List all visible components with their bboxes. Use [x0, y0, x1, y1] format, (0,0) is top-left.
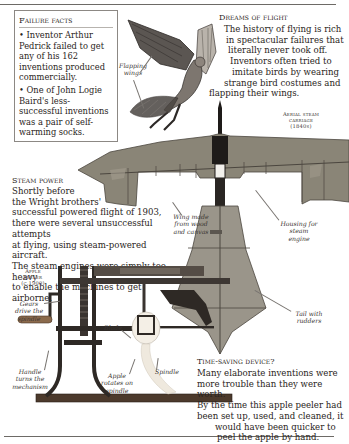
- label-flapping-wings: Flapping wings: [118, 62, 148, 77]
- label-handle: Handle turns the mechanism: [10, 368, 50, 390]
- label-housing: Housing for steam engine: [279, 220, 319, 242]
- steam-power-heading: Steam power: [12, 176, 63, 185]
- failure-facts-title: Failure facts: [19, 15, 113, 28]
- label-apple: Apple rotates on spindle: [100, 372, 134, 394]
- time-saving-text: Many elaborate inventions were more trou…: [197, 368, 349, 443]
- top-rule: [0, 4, 336, 5]
- dreams-of-flight-heading: Dreams of flight: [219, 13, 288, 22]
- dreams-of-flight-text: The history of flying is rich in spectac…: [212, 24, 344, 99]
- label-tail: Tail with rudders: [292, 310, 326, 325]
- label-gears: Gears drive the spindle: [14, 300, 44, 322]
- fact-item: • Inventor Arthur Pedrick failed to get …: [19, 30, 113, 83]
- label-spindle: Spindle: [154, 368, 180, 375]
- time-saving-heading: Time-saving device?: [197, 357, 275, 366]
